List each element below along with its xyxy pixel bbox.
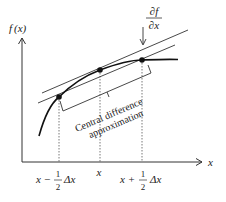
svg-text:x −: x − [35, 173, 51, 185]
svg-text:f(x): f(x) [9, 22, 27, 35]
tangent-line [42, 30, 188, 93]
tick-label-left: x − 1 2 Δx [35, 169, 75, 192]
svg-text:x +: x + [119, 173, 135, 185]
derivative-label: ∂f ∂x [146, 5, 162, 31]
svg-text:Δx: Δx [63, 173, 75, 185]
svg-text:1: 1 [56, 169, 61, 179]
svg-text:2: 2 [56, 182, 61, 192]
point-right [139, 57, 145, 63]
svg-text:2: 2 [141, 182, 146, 192]
svg-text:1: 1 [141, 169, 146, 179]
bracket-tick [107, 92, 109, 97]
point-center [97, 67, 103, 73]
central-difference-diagram: ∂f ∂x f(x) x Central difference approxim… [0, 0, 226, 202]
axes [19, 38, 203, 166]
tick-label-center: x [96, 166, 102, 178]
derivative-arrow-icon [140, 27, 146, 45]
y-axis-label: f(x) [9, 22, 27, 35]
derivative-denominator: ∂x [149, 19, 159, 31]
central-difference-label: Central difference approximation [73, 95, 149, 144]
tick-label-right: x + 1 2 Δx [119, 169, 161, 192]
point-left [56, 94, 62, 100]
derivative-numerator: ∂f [150, 5, 160, 17]
svg-text:Δx: Δx [149, 173, 161, 185]
x-axis-label: x [207, 156, 213, 168]
